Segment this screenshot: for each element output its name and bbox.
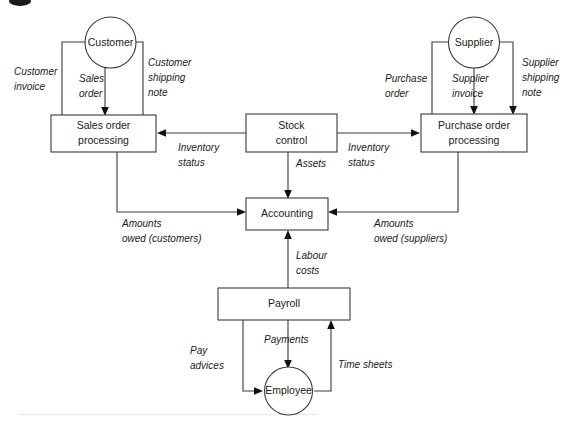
arrow-head-labour-costs	[284, 230, 292, 239]
customer-shipping-note-line3: note	[148, 87, 168, 98]
flow-label-pay-advices: Pay advices	[190, 345, 224, 371]
amounts-owed-suppliers-line2: owed (suppliers)	[374, 233, 447, 244]
arrow-head-time-sheets	[327, 320, 335, 329]
flow-label-inventory-status-right: Inventory status	[348, 142, 390, 168]
pay-advices-line1: Pay	[190, 345, 208, 356]
inventory-status-right-line1: Inventory	[348, 142, 390, 153]
flow-line-supplier-shipping-note	[498, 42, 513, 110]
employee-label: Employee	[265, 384, 312, 396]
flow-line-time-sheets	[314, 325, 331, 391]
sales-order-processing-label-line2: processing	[78, 134, 129, 146]
accounting-label: Accounting	[261, 207, 313, 219]
arrow-head-inventory-status-right	[411, 129, 420, 137]
flow-label-customer-invoice: Customer invoice	[14, 66, 58, 92]
labour-costs-line1: Labour	[296, 250, 328, 261]
supplier-shipping-note-line1: Supplier	[522, 57, 559, 68]
flow-label-supplier-invoice: Supplier invoice	[452, 73, 489, 99]
supplier-invoice-line1: Supplier	[452, 73, 489, 84]
arrow-head-amounts-owed-suppliers	[328, 208, 337, 216]
process-accounting[interactable]: Accounting	[246, 198, 328, 230]
purchase-order-line1: Purchase	[385, 73, 428, 84]
assets-label: Assets	[295, 158, 326, 169]
customer-invoice-line2: invoice	[14, 81, 46, 92]
sales-order-line2: order	[79, 88, 103, 99]
customer-invoice-line1: Customer	[14, 66, 58, 77]
purchase-order-processing-label-line1: Purchase order	[438, 119, 510, 131]
entity-supplier[interactable]: Supplier	[449, 17, 500, 68]
entity-employee[interactable]: Employee	[265, 367, 313, 415]
flow-label-assets: Assets	[295, 158, 326, 169]
data-flow-diagram: Customer Supplier Employee Sales order p…	[0, 0, 581, 423]
stock-control-label-line1: Stock	[278, 119, 305, 131]
page-corner-artifact	[9, 0, 31, 6]
supplier-invoice-line2: invoice	[452, 88, 484, 99]
arrow-head-inventory-status-left	[157, 129, 166, 137]
flow-label-customer-shipping-note: Customer shipping note	[148, 57, 192, 98]
flow-line-pay-advices	[243, 320, 258, 391]
inventory-status-right-line2: status	[348, 157, 375, 168]
flow-label-time-sheets: Time sheets	[338, 359, 392, 370]
flow-label-supplier-shipping-note: Supplier shipping note	[522, 57, 560, 98]
customer-label: Customer	[88, 36, 134, 48]
flow-label-purchase-order: Purchase order	[385, 73, 428, 99]
supplier-shipping-note-line3: note	[522, 87, 542, 98]
inventory-status-left-line2: status	[178, 157, 205, 168]
sales-order-processing-label-line1: Sales order	[77, 119, 131, 131]
flow-label-amounts-owed-suppliers: Amounts owed (suppliers)	[373, 218, 447, 244]
time-sheets-label: Time sheets	[338, 359, 392, 370]
process-purchase-order-processing[interactable]: Purchase order processing	[421, 114, 527, 152]
arrow-head-pay-advices	[254, 387, 263, 395]
flow-label-sales-order: Sales order	[79, 73, 104, 99]
amounts-owed-suppliers-line1: Amounts	[373, 218, 413, 229]
flow-label-inventory-status-left: Inventory status	[178, 142, 220, 168]
purchase-order-line2: order	[385, 88, 409, 99]
purchase-order-processing-label-line2: processing	[449, 134, 500, 146]
labour-costs-line2: costs	[296, 265, 319, 276]
amounts-owed-customers-line1: Amounts	[121, 218, 161, 229]
inventory-status-left-line1: Inventory	[178, 142, 220, 153]
stock-control-label-line2: control	[276, 134, 308, 146]
process-payroll[interactable]: Payroll	[218, 288, 350, 320]
pay-advices-line2: advices	[190, 360, 224, 371]
process-sales-order-processing[interactable]: Sales order processing	[51, 115, 156, 152]
arrow-head-amounts-owed-customers	[237, 208, 246, 216]
entity-customer[interactable]: Customer	[85, 17, 136, 68]
customer-shipping-note-line1: Customer	[148, 57, 192, 68]
amounts-owed-customers-line2: owed (customers)	[122, 233, 201, 244]
flow-label-labour-costs: Labour costs	[296, 250, 328, 276]
supplier-label: Supplier	[455, 36, 494, 48]
process-stock-control[interactable]: Stock control	[246, 114, 337, 152]
customer-shipping-note-line2: shipping	[148, 72, 186, 83]
flow-label-amounts-owed-customers: Amounts owed (customers)	[121, 218, 201, 244]
diagram-canvas: Customer Supplier Employee Sales order p…	[0, 0, 581, 423]
sales-order-line1: Sales	[79, 73, 104, 84]
flow-label-payments: Payments	[264, 334, 308, 345]
payroll-label: Payroll	[268, 297, 300, 309]
payments-label: Payments	[264, 334, 308, 345]
page-bottom-artifact	[18, 414, 318, 415]
supplier-shipping-note-line2: shipping	[522, 72, 560, 83]
